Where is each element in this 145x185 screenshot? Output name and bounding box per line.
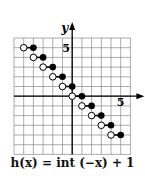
function-caption: h(x) = int (−x) + 1: [0, 156, 145, 170]
x-axis-arrow-icon: [136, 93, 144, 99]
open-dot: [79, 103, 86, 110]
closed-dot: [40, 54, 47, 61]
closed-dot: [98, 112, 105, 119]
open-dot: [59, 83, 66, 90]
x-tick-label: 5: [117, 96, 125, 109]
open-dot: [50, 74, 57, 81]
y-axis-label: y: [60, 21, 69, 35]
closed-dot: [30, 44, 37, 51]
open-dot: [40, 64, 47, 71]
open-dot: [108, 132, 115, 139]
closed-dot: [59, 74, 66, 81]
closed-dot: [50, 64, 57, 71]
closed-dot: [79, 93, 86, 100]
open-dot: [30, 54, 37, 61]
open-dot: [98, 122, 105, 129]
open-dot: [88, 112, 95, 119]
y-tick-label: 5: [62, 42, 70, 55]
step-function-graph: xy55: [0, 0, 145, 160]
closed-dot: [117, 132, 124, 139]
open-dot: [69, 93, 76, 100]
y-axis-arrow-icon: [69, 22, 75, 30]
open-dot: [20, 44, 27, 51]
closed-dot: [69, 83, 76, 90]
closed-dot: [108, 122, 115, 129]
closed-dot: [88, 103, 95, 110]
